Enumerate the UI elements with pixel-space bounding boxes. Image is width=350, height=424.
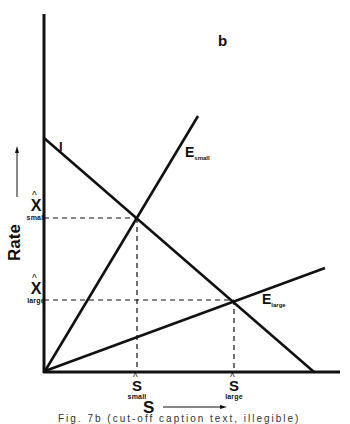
figure-caption: Fig. 7b (cut-off caption text, illegible… (58, 413, 300, 424)
hat-icon: ^ (133, 373, 138, 383)
y-tick-x-large: ^ X large (26, 281, 46, 304)
hat-icon: ^ (32, 274, 37, 284)
y-axis-label: Rate (6, 224, 23, 261)
hat-icon: ^ (230, 373, 235, 383)
y-tick-x-large-sub: large (26, 297, 46, 304)
e-small-sub: small (194, 155, 209, 161)
y-tick-x-small: ^ X small (26, 198, 46, 221)
s-arrow-head (220, 405, 227, 409)
panel-label: b (218, 33, 227, 48)
y-tick-x-small-sub: small (26, 214, 46, 221)
line-i (44, 138, 314, 372)
line-i-label: I (59, 140, 63, 153)
e-small-label: Esmall (185, 145, 210, 161)
x-tick-s-large: ^ S large (223, 378, 245, 400)
hat-icon: ^ (32, 191, 37, 201)
e-large-label: Elarge (262, 292, 286, 308)
rate-arrow-head (15, 146, 19, 153)
line-e-large (45, 268, 325, 371)
e-large-main: E (262, 291, 271, 307)
x-tick-s-small: ^ S small (126, 378, 148, 400)
line-e-small (45, 116, 198, 371)
x-tick-s-large-sub: large (223, 393, 245, 400)
diagram-canvas (0, 0, 350, 424)
e-small-main: E (185, 144, 194, 160)
e-large-sub: large (271, 302, 285, 308)
